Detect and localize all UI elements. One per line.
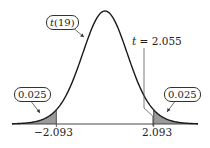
observed-statistic-label: t = 2.055 — [132, 36, 182, 47]
stat-value: = 2.055 — [136, 35, 182, 47]
right-tail-area-label: 0.025 — [164, 87, 201, 102]
t-distribution-chart — [0, 0, 210, 148]
dist-label-df: (19) — [54, 17, 75, 28]
left-critical-value: −2.093 — [34, 127, 73, 138]
left-tail-area-label: 0.025 — [14, 87, 51, 102]
right-critical-value: 2.093 — [142, 127, 172, 138]
statistic-leader-line — [144, 48, 153, 126]
distribution-label: t(19) — [46, 15, 79, 30]
density-curve — [12, 11, 198, 124]
